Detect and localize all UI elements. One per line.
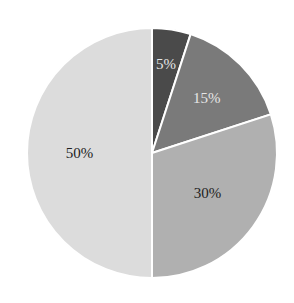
pie-chart: 5% 15% 30% 50% [0, 0, 294, 303]
slice-label-1: 5% [156, 56, 176, 72]
slice-label-4: 50% [66, 145, 94, 161]
slice-label-3: 30% [194, 185, 222, 201]
pie-slices [27, 28, 277, 278]
slice-label-2: 15% [193, 90, 221, 106]
